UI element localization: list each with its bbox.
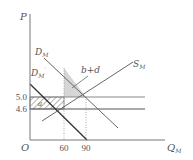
y-axis-label: P xyxy=(19,11,27,22)
shaded-area-label: b+d xyxy=(81,65,100,75)
hatched-area-label: a xyxy=(38,100,42,108)
demand-prime-curve-label: DM′ xyxy=(30,66,46,79)
supply-curve-label: SM xyxy=(133,59,146,70)
welfare-diagram: P QM O 5.0 4.6 60 90 DM DM′ SM b+d a xyxy=(0,0,193,160)
price-tick-4-6: 4.6 xyxy=(16,104,28,114)
origin-label: O xyxy=(21,142,29,153)
hatched-area xyxy=(30,97,64,109)
quantity-tick-60: 60 xyxy=(60,143,70,153)
price-tick-5-0: 5.0 xyxy=(16,92,28,102)
x-axis-label: QM xyxy=(167,142,182,154)
demand-curve-label: DM xyxy=(34,47,49,58)
quantity-tick-90: 90 xyxy=(82,143,92,153)
